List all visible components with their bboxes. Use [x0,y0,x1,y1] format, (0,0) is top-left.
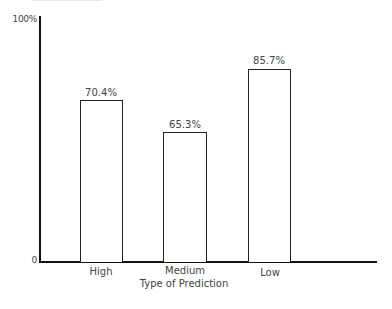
bar-medium [163,132,207,262]
value-label-high: 70.4% [71,87,131,98]
value-label-low: 85.7% [239,55,299,66]
bar-low [248,69,291,262]
y-axis [39,16,41,263]
x-axis-title: Type of Prediction [114,278,254,289]
cropped-header-fragment [32,0,102,1]
category-label-medium: Medium [150,265,220,276]
bar-high [80,100,123,262]
y-tick-0: 0 [3,255,37,265]
category-label-high: High [66,266,136,277]
category-label-low: Low [235,267,305,278]
y-tick-100: 100% [3,14,37,24]
value-label-medium: 65.3% [155,119,215,130]
